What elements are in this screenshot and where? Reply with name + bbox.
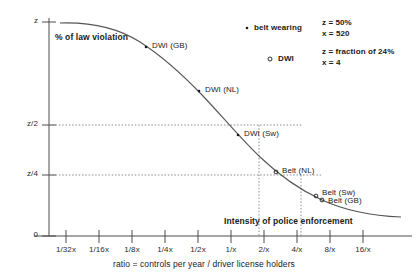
x-tick-label-0: 1/32x [50, 245, 82, 254]
y-tick-label-z-half: z/2 [16, 119, 38, 128]
annotation-belt-nl: Belt (NL) [282, 166, 314, 175]
legend-marker-belt-wearing [246, 27, 249, 30]
x-tick-label-3: 1/4x [150, 245, 180, 254]
legend-label-belt-wearing: belt wearing [254, 23, 302, 32]
legend-marker-dwi [268, 57, 272, 61]
y-tick-label-zero: 0 [22, 230, 38, 239]
annotation-belt-gb: Belt (GB) [328, 196, 362, 205]
x-tick-label-5: 1/x [218, 245, 244, 254]
x-tick-label-9: 16/x [348, 245, 378, 254]
marker-dwi-sw [237, 134, 240, 137]
annotation-dwi-gb: DWI (GB) [152, 41, 187, 50]
legend-note-dwi-z: z = fraction of 24% [322, 47, 394, 56]
y-tick-label-z: z [22, 16, 38, 25]
chart-container: z z/2 z/4 0 % of law violation 1/32x 1/1… [0, 0, 418, 277]
x-tick-label-2: 1/8x [117, 245, 147, 254]
legend-note-belt-x: x = 520 [322, 29, 350, 38]
enforcement-note: Intensity of police enforcement [224, 216, 353, 226]
x-tick-label-6: 2/x [251, 245, 277, 254]
x-tick-label-4: 1/2x [183, 245, 213, 254]
x-tick-label-7: 4/x [284, 245, 310, 254]
marker-dwi-gb [145, 46, 148, 49]
x-axis-caption: ratio = controls per year / driver licen… [113, 259, 295, 269]
x-tick-label-8: 8/x [317, 245, 343, 254]
legend-label-dwi: DWI [278, 54, 294, 63]
data-point-markers [145, 46, 324, 202]
legend-note-dwi-x: x = 4 [322, 58, 341, 67]
annotation-dwi-nl: DWI (NL) [205, 85, 239, 94]
annotation-dwi-sw: DWI (Sw) [244, 129, 279, 138]
y-tick-label-z-quarter: z/4 [16, 169, 38, 178]
x-tick-label-1: 1/16x [83, 245, 115, 254]
marker-dwi-nl [198, 90, 201, 93]
legend-note-belt-z: z = 50% [322, 18, 352, 27]
y-axis-caption: % of law violation [55, 32, 128, 42]
